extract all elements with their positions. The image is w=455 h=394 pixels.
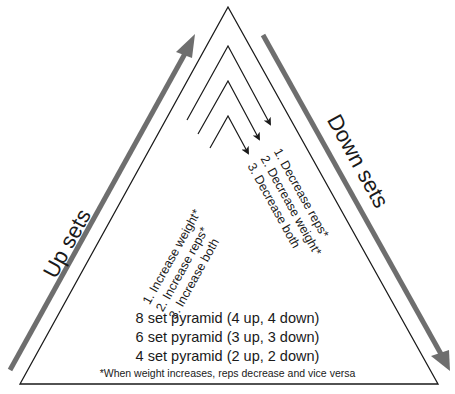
chevron-arrow-3 (210, 116, 248, 153)
chevron-arrow-2 (198, 81, 259, 139)
footnote: *When weight increases, reps decrease an… (0, 367, 455, 379)
pyramid-6-set: 6 set pyramid (3 up, 3 down) (0, 328, 455, 347)
pyramid-types: 8 set pyramid (4 up, 4 down) 6 set pyram… (0, 309, 455, 366)
pyramid-4-set: 4 set pyramid (2 up, 2 down) (0, 347, 455, 366)
pyramid-8-set: 8 set pyramid (4 up, 4 down) (0, 309, 455, 328)
up-arrow-head (176, 34, 195, 58)
